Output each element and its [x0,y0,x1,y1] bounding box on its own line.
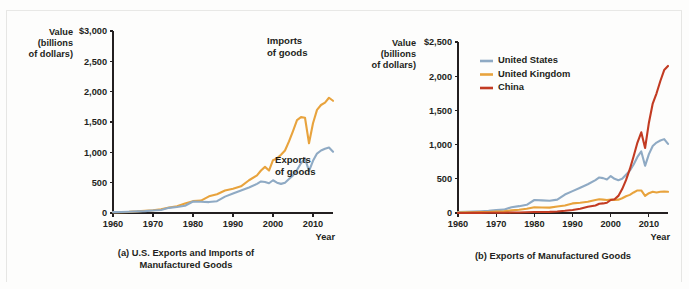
chart-legend: United StatesUnited KingdomChina [480,54,570,92]
y-axis-title: Value(billionsof dollars) [29,27,73,59]
chart-panel-a: 05001,0001,5002,0002,500$3,0001960197019… [0,0,348,289]
x-axis-ticks: 196019701980199020002010 [448,213,659,229]
y-axis-title-line: (billions [381,49,416,59]
panel-a-caption-line2: Manufactured Goods [140,260,233,270]
y-tick-label: 2,500 [84,57,107,67]
y-tick-label: 1,000 [429,140,452,150]
y-axis-title-line: Value [49,27,73,37]
x-axis-ticks: 196019701980199020002010 [103,213,323,229]
x-tick-label: 2010 [639,219,659,229]
legend-label-united-kingdom: United Kingdom [498,68,570,79]
x-tick-label: 2010 [303,219,323,229]
x-tick-label: 1990 [562,219,582,229]
annotations: Importsof goodsExportsof goods [267,35,316,176]
axis-lines [113,31,333,213]
y-axis-ticks: 05001,0001,5002,000$2,500 [424,37,458,218]
y-tick-label: 1,000 [84,148,107,158]
y-tick-label: 0 [102,208,107,218]
panel-a-caption-line1: (a) U.S. Exports and Imports of [118,248,255,258]
x-tick-label: 1980 [183,219,203,229]
series-line-united-kingdom [458,190,668,212]
x-tick-label: 2000 [263,219,283,229]
legend-label-united-states: United States [498,54,558,65]
y-axis-title-line: of dollars) [372,60,416,70]
chart-panel-b: 05001,0001,5002,000$2,500196019701980199… [348,0,689,289]
x-tick-label: 1970 [143,219,163,229]
annotation-imports-of-goods: Imports [267,35,302,46]
y-tick-label: 2,000 [429,72,452,82]
y-axis-title: Value(billionsof dollars) [372,38,416,70]
y-axis-title-line: of dollars) [29,49,73,59]
annotation-exports-of-goods: Exports [275,154,311,165]
y-axis-ticks: 05001,0001,5002,0002,500$3,000 [79,26,113,218]
figure-root: 05001,0001,5002,0002,500$3,0001960197019… [0,0,689,289]
y-tick-label: 2,000 [84,87,107,97]
x-tick-label: 1970 [486,219,506,229]
panel-b-caption: (b) Exports of Manufactured Goods [475,251,631,261]
x-tick-label: 1990 [223,219,243,229]
annotation-imports-of-goods: of goods [267,47,308,58]
x-axis-title: Year [651,232,671,242]
x-tick-label: 1980 [524,219,544,229]
y-tick-label: 500 [92,178,107,188]
annotation-exports-of-goods: of goods [275,166,316,177]
y-tick-label: 0 [447,208,452,218]
x-axis-title: Year [316,232,336,242]
y-axis-title-line: (billions [38,38,73,48]
y-axis-title-line: Value [392,38,416,48]
y-tick-label: 1,500 [429,106,452,116]
x-tick-label: 2000 [601,219,621,229]
x-tick-label: 1960 [448,219,468,229]
y-tick-label: 500 [437,174,452,184]
series-line-united-states [458,139,668,212]
y-tick-label: $2,500 [424,37,452,47]
y-tick-label: $3,000 [79,26,107,36]
legend-label-china: China [498,81,525,92]
y-tick-label: 1,500 [84,117,107,127]
x-tick-label: 1960 [103,219,123,229]
